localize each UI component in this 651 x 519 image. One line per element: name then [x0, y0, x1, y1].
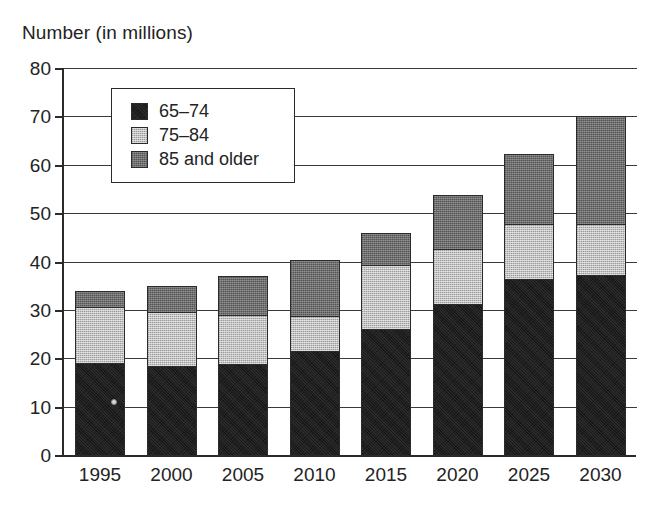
bar-segment-2020-series-2 — [433, 249, 483, 303]
bar-segment-1995-series-2 — [75, 307, 125, 363]
swatch-75-84-icon — [131, 127, 148, 144]
y-tick-stub-30 — [627, 310, 637, 311]
bar-segment-2020-series-1 — [433, 304, 483, 455]
bar-1995 — [75, 291, 125, 455]
y-tick-stub-70 — [627, 116, 637, 117]
bar-2000 — [147, 286, 197, 455]
gridline-80 — [64, 68, 636, 69]
legend-item-2: 75–84 — [112, 123, 294, 147]
bar-segment-2005-series-3 — [218, 276, 268, 315]
bar-segment-2030-series-3 — [576, 116, 626, 224]
legend-label-3: 85 and older — [159, 148, 259, 170]
bar-2015 — [361, 233, 411, 456]
chart-legend: 65–7475–8485 and older — [111, 88, 295, 183]
y-tick-label-30: 30 — [30, 300, 51, 319]
y-tick-label-60: 60 — [30, 155, 51, 174]
bar-segment-2000-series-1 — [147, 366, 197, 455]
y-tick-stub-20 — [627, 358, 637, 359]
bar-segment-2015-series-3 — [361, 233, 411, 265]
y-tick-stub-40 — [627, 262, 637, 263]
y-tick-mark-50 — [55, 213, 64, 215]
bar-segment-2030-series-2 — [576, 224, 626, 275]
y-tick-stub-60 — [627, 165, 637, 166]
y-tick-label-0: 0 — [40, 446, 51, 465]
y-tick-stub-50 — [627, 213, 637, 214]
bar-segment-2015-series-2 — [361, 265, 411, 329]
y-tick-mark-0 — [55, 455, 64, 457]
swatch-65-74-icon — [131, 103, 148, 120]
bar-2030 — [576, 116, 626, 455]
x-tick-label-2025: 2025 — [508, 465, 550, 484]
legend-label-1: 65–74 — [159, 100, 209, 122]
y-tick-mark-70 — [55, 116, 64, 118]
x-tick-label-2030: 2030 — [579, 465, 621, 484]
bar-segment-2020-series-3 — [433, 195, 483, 249]
bar-segment-2010-series-1 — [290, 351, 340, 455]
y-tick-stub-10 — [627, 407, 637, 408]
x-tick-label-2000: 2000 — [150, 465, 192, 484]
y-tick-mark-30 — [55, 310, 64, 312]
y-tick-mark-80 — [55, 68, 64, 70]
bar-segment-1995-series-1 — [75, 363, 125, 455]
x-tick-label-2005: 2005 — [222, 465, 264, 484]
y-tick-label-10: 10 — [30, 397, 51, 416]
bar-2020 — [433, 195, 483, 455]
y-tick-label-20: 20 — [30, 349, 51, 368]
x-tick-label-2010: 2010 — [293, 465, 335, 484]
x-tick-label-2020: 2020 — [436, 465, 478, 484]
legend-label-2: 75–84 — [159, 124, 209, 146]
legend-item-1: 65–74 — [112, 99, 294, 123]
y-tick-stub-80 — [627, 68, 637, 69]
swatch-85-older-icon — [131, 151, 148, 168]
y-tick-mark-10 — [55, 407, 64, 409]
bar-segment-2005-series-1 — [218, 364, 268, 455]
y-tick-label-70: 70 — [30, 107, 51, 126]
bar-segment-2010-series-2 — [290, 316, 340, 351]
y-tick-label-80: 80 — [30, 59, 51, 78]
bar-segment-2025-series-2 — [504, 224, 554, 280]
y-axis-title: Number (in millions) — [22, 22, 193, 44]
bar-segment-2025-series-3 — [504, 154, 554, 224]
y-tick-mark-20 — [55, 358, 64, 360]
bar-segment-2025-series-1 — [504, 279, 554, 455]
bar-segment-2030-series-1 — [576, 275, 626, 455]
bar-segment-2015-series-1 — [361, 329, 411, 455]
legend-item-3: 85 and older — [112, 147, 294, 171]
bar-segment-1995-series-3 — [75, 291, 125, 308]
y-tick-mark-60 — [55, 165, 64, 167]
y-tick-label-50: 50 — [30, 204, 51, 223]
y-tick-mark-40 — [55, 262, 64, 264]
bar-segment-2000-series-3 — [147, 286, 197, 313]
x-tick-label-1995: 1995 — [79, 465, 121, 484]
bar-segment-2000-series-2 — [147, 312, 197, 366]
bar-2010 — [290, 260, 340, 455]
bar-2025 — [504, 154, 554, 455]
bar-2005 — [218, 276, 268, 455]
y-tick-label-40: 40 — [30, 252, 51, 271]
bar-segment-2010-series-3 — [290, 260, 340, 316]
bar-segment-2005-series-2 — [218, 315, 268, 364]
x-tick-label-2015: 2015 — [365, 465, 407, 484]
